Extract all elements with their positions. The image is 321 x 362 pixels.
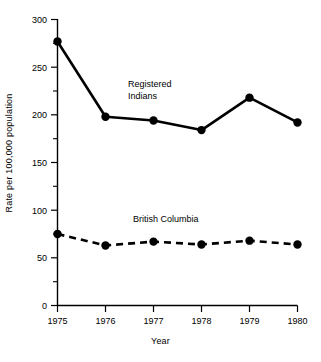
y-tick-label: 250 xyxy=(32,63,47,73)
series-markers-registered-indians xyxy=(53,37,301,134)
x-tick-label: 1975 xyxy=(47,316,67,326)
data-point xyxy=(101,241,109,249)
series-markers-british-columbia xyxy=(53,230,301,250)
y-tick-label: 300 xyxy=(32,15,47,25)
line-chart: Rate per 100,000 population 300 xyxy=(0,0,321,362)
y-axis-major-ticks xyxy=(51,20,58,306)
x-axis-title: Year xyxy=(0,336,321,346)
y-tick-label: 50 xyxy=(37,253,47,263)
x-axis-ticks xyxy=(58,306,298,313)
data-point xyxy=(149,237,157,245)
annotation-british-columbia: British Columbia xyxy=(133,214,199,224)
annotation-registered-indians-line1: Registered xyxy=(128,79,172,89)
x-tick-label: 1979 xyxy=(239,316,259,326)
series-line-registered-indians xyxy=(58,41,298,130)
x-axis-title-text: Year xyxy=(151,336,170,346)
data-point xyxy=(293,240,301,248)
annotation-registered-indians-line2: Indians xyxy=(128,91,158,101)
data-point xyxy=(245,93,253,101)
plot-area: 300 250 200 150 100 50 0 1975 1976 1977 … xyxy=(0,0,321,362)
data-point xyxy=(293,118,301,126)
x-tick-label: 1977 xyxy=(143,316,163,326)
data-point xyxy=(101,113,109,121)
y-axis-tick-labels: 300 250 200 150 100 50 0 xyxy=(32,15,47,311)
data-point xyxy=(197,240,205,248)
y-tick-label: 100 xyxy=(32,206,47,216)
data-point xyxy=(197,126,205,134)
y-tick-label: 200 xyxy=(32,110,47,120)
y-tick-label: 0 xyxy=(42,301,47,311)
x-tick-label: 1978 xyxy=(191,316,211,326)
x-axis-tick-labels: 1975 1976 1977 1978 1979 1980 xyxy=(47,316,307,326)
data-point xyxy=(53,230,61,238)
series-line-british-columbia xyxy=(58,234,298,245)
data-point xyxy=(53,37,61,45)
data-point xyxy=(149,116,157,124)
data-point xyxy=(245,236,253,244)
y-tick-label: 150 xyxy=(32,158,47,168)
x-tick-label: 1976 xyxy=(95,316,115,326)
x-tick-label: 1980 xyxy=(287,316,307,326)
